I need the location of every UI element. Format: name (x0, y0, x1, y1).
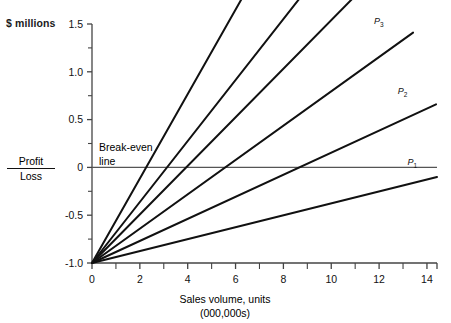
x-axis-title-main: Sales volume, units (140, 292, 310, 306)
series-label-P3: P3 (374, 16, 384, 28)
x-axis-title-sub: (000,000s) (140, 306, 310, 320)
profit-label: Profit (7, 155, 55, 169)
x-tick-label: 2 (137, 273, 143, 285)
series-label-index: 1 (413, 161, 417, 168)
y-axis-units-label: $ millions (6, 17, 55, 29)
x-tick-label: 0 (89, 273, 95, 285)
y-tick-label: -1.0 (65, 257, 83, 269)
y-tick-label: 0 (77, 161, 83, 173)
y-tick-label: 1.5 (68, 18, 83, 30)
series-line-P1 (92, 177, 437, 263)
chart-figure: -1.0-0.500.51.01.502468101214 $ millions… (0, 0, 451, 323)
x-tick-label: 14 (421, 273, 433, 285)
breakeven-annotation-line2: line (99, 155, 153, 169)
x-tick-label: 6 (233, 273, 239, 285)
series-label-index: 2 (404, 91, 408, 98)
profit-loss-axis-label: Profit Loss (7, 155, 55, 183)
y-tick-label: -0.5 (65, 209, 83, 221)
x-tick-label: 8 (280, 273, 286, 285)
series-label-index: 3 (380, 21, 384, 28)
x-axis-title: Sales volume, units (000,000s) (140, 292, 310, 320)
series-line-P4 (92, 0, 376, 263)
x-tick-label: 12 (373, 273, 385, 285)
series-line-P5 (92, 0, 337, 263)
breakeven-annotation-line1: Break-even (99, 141, 153, 155)
series-line-P2 (92, 104, 436, 263)
series-label-P2: P2 (398, 86, 408, 98)
series-label-P1: P1 (407, 157, 417, 169)
breakeven-annotation: Break-even line (99, 141, 153, 168)
series-line-P6 (92, 0, 269, 263)
y-tick-label: 0.5 (68, 113, 83, 125)
chart-canvas: -1.0-0.500.51.01.502468101214 (0, 0, 451, 323)
x-tick-label: 10 (325, 273, 337, 285)
loss-label: Loss (7, 169, 55, 183)
y-tick-label: 1.0 (68, 66, 83, 78)
x-tick-label: 4 (185, 273, 191, 285)
